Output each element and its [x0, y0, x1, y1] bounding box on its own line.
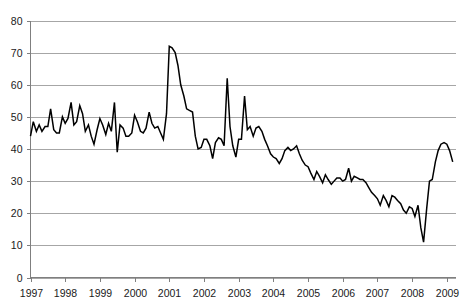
x-axis-ticks: 1997199819992000200120022003200420052006…: [20, 278, 460, 299]
x-tick-label-2002: 2002: [193, 287, 217, 299]
x-tick-label-2004: 2004: [262, 287, 286, 299]
x-tick-label-2001: 2001: [158, 287, 182, 299]
line-chart: 0102030405060708019971998199920002001200…: [0, 0, 463, 305]
x-tick-label-2000: 2000: [124, 287, 148, 299]
y-tick-label-30: 30: [11, 175, 23, 187]
x-tick-label-1998: 1998: [54, 287, 78, 299]
y-tick-label-50: 50: [11, 111, 23, 123]
y-tick-label-80: 80: [11, 15, 23, 27]
x-tick-label-2005: 2005: [297, 287, 321, 299]
x-tick-label-2006: 2006: [332, 287, 356, 299]
x-tick-label-2003: 2003: [228, 287, 252, 299]
y-tick-label-0: 0: [17, 272, 23, 284]
x-tick-label-1999: 1999: [89, 287, 113, 299]
y-tick-label-10: 10: [11, 239, 23, 251]
y-tick-label-40: 40: [11, 143, 23, 155]
chart-canvas: 0102030405060708019971998199920002001200…: [0, 0, 463, 305]
y-tick-label-70: 70: [11, 47, 23, 59]
x-tick-label-2007: 2007: [366, 287, 390, 299]
x-tick-label-1997: 1997: [20, 287, 44, 299]
gridlines: [31, 22, 456, 279]
y-axis-ticks: 01020304050607080: [11, 15, 31, 284]
x-tick-label-2009: 2009: [436, 287, 460, 299]
y-tick-label-20: 20: [11, 207, 23, 219]
y-tick-label-60: 60: [11, 79, 23, 91]
data-line-series-1: [31, 46, 453, 242]
data-series-group: [31, 46, 453, 242]
x-tick-label-2008: 2008: [401, 287, 425, 299]
